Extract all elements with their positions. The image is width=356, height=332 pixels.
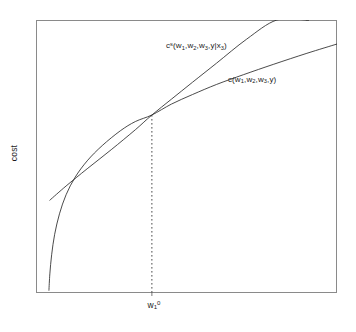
y-axis-label: cost — [9, 123, 19, 183]
short-run-cost-label: cs(w1,w2,w3,y|x3) — [166, 41, 227, 51]
plot-frame — [36, 20, 337, 293]
cost-function-figure: cost w10 cs(w1,w2,w3,y|x3) c(w1,w2,w3,y) — [0, 0, 356, 332]
x-axis-tick-label: w10 — [139, 299, 169, 310]
long-run-cost-label: c(w1,w2,w3,y) — [228, 75, 276, 84]
